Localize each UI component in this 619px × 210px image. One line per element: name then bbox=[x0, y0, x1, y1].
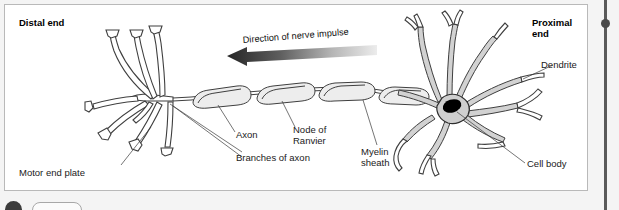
scrollbar-thumb[interactable] bbox=[601, 19, 610, 28]
scrollbar-track[interactable] bbox=[604, 0, 607, 210]
distal-end-title: Distal end bbox=[19, 17, 65, 28]
label-axon: Axon bbox=[236, 129, 258, 140]
bottom-pill-button[interactable] bbox=[32, 202, 82, 210]
proximal-end-title-line2: end bbox=[532, 28, 549, 39]
arrow-label: Direction of nerve impulse bbox=[242, 27, 349, 45]
label-branches-of-axon: Branches of axon bbox=[236, 152, 310, 163]
label-node-of-ranvier-line2: Ranvier bbox=[293, 135, 326, 146]
neuron-diagram: Direction of nerve impulse Distal end Pr… bbox=[5, 5, 587, 190]
label-cell-body: Cell body bbox=[527, 158, 567, 169]
label-node-of-ranvier-line1: Node of bbox=[293, 124, 327, 135]
neuron-diagram-card: Direction of nerve impulse Distal end Pr… bbox=[4, 4, 588, 191]
screenshot-root: Direction of nerve impulse Distal end Pr… bbox=[0, 0, 619, 210]
label-myelin-sheath-line1: Myelin bbox=[361, 146, 388, 157]
label-motor-end-plate: Motor end plate bbox=[19, 167, 85, 178]
axon-terminal-branches bbox=[85, 26, 173, 156]
label-myelin-sheath-line2: sheath bbox=[361, 157, 390, 168]
myelinated-axon bbox=[173, 82, 429, 108]
label-dendrite: Dendrite bbox=[541, 59, 577, 70]
impulse-arrow bbox=[227, 45, 377, 66]
bottom-circle-button[interactable] bbox=[5, 201, 22, 210]
leader-lines bbox=[121, 65, 553, 165]
proximal-end-title-line1: Proximal bbox=[532, 17, 572, 28]
